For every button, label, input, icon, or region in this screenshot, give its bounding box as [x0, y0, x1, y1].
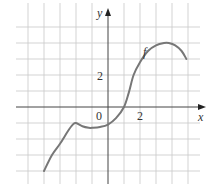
x-tick-label-2: 2 [137, 109, 143, 123]
axes [16, 8, 206, 184]
origin-label: 0 [96, 109, 102, 123]
x-axis-label: x [197, 110, 204, 124]
y-axis-label: y [96, 6, 103, 20]
y-tick-label-2: 2 [97, 69, 103, 83]
y-axis-arrow-icon [105, 8, 111, 16]
function-graph: y x f 0 2 2 [0, 0, 214, 184]
